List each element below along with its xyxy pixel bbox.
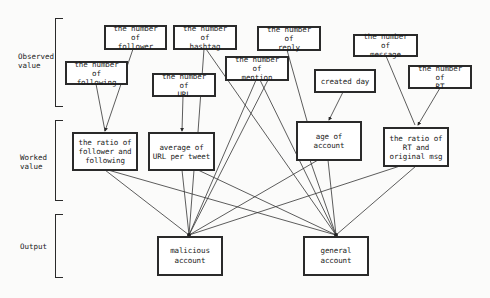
node-general-account: general account <box>303 236 369 276</box>
node-created-day: created day <box>314 69 376 93</box>
node-ratio-rt-original-msg: the ratio of RT and original msg <box>383 127 449 167</box>
observed-value-label: Observed value <box>18 52 54 70</box>
worked-bracket <box>55 120 63 201</box>
edge-ratio-rt-general <box>336 166 416 235</box>
node-number-of-url: the number of URL <box>152 73 216 97</box>
worked-value-label: Worked value <box>20 153 47 171</box>
edge-created-age <box>329 92 343 120</box>
observed-bracket <box>55 18 63 107</box>
output-bracket <box>55 214 63 278</box>
node-number-of-message: the number of message <box>353 34 418 57</box>
node-number-of-hashtag: the number of hashtag <box>173 25 237 50</box>
edge-ratio-rt-malicious <box>189 166 400 235</box>
node-number-of-follower: the number of follower <box>104 25 167 50</box>
node-number-of-mention: the number of mention <box>225 56 289 81</box>
output-label: Output <box>20 242 47 251</box>
edge-rt-ratio-rt <box>418 88 440 125</box>
node-average-url-per-tweet: average of URL per tweet <box>148 132 215 171</box>
node-malicious-account: malicious account <box>157 236 223 276</box>
edge-following-ratio <box>96 84 105 131</box>
node-ratio-follower-following: the ratio of follower and following <box>72 132 138 171</box>
node-number-of-rt: the number of RT <box>408 65 472 89</box>
edge-reply-age <box>287 50 307 121</box>
edge-ratio-malicious <box>105 170 189 235</box>
edge-ratio-general <box>108 170 336 235</box>
edge-url-avg <box>182 96 183 131</box>
node-age-of-account: age of account <box>296 121 362 161</box>
feature-diagram: Observed value Worked value Output the n… <box>0 0 490 298</box>
node-number-of-reply: the number of reply <box>257 26 321 51</box>
node-number-of-following: the number of following <box>65 61 128 85</box>
edge-avg-malicious-1 <box>182 170 189 235</box>
